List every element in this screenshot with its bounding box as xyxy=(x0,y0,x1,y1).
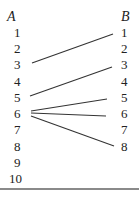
bottom-rule xyxy=(0,188,139,190)
mapping-line-6-to-6 xyxy=(31,113,106,116)
mapping-arrows xyxy=(0,0,139,201)
mapping-line-6-to-5 xyxy=(31,99,107,111)
mapping-line-3-to-1 xyxy=(32,34,113,63)
mapping-line-5-to-3 xyxy=(30,67,112,96)
mapping-line-6-to-8 xyxy=(31,116,114,146)
